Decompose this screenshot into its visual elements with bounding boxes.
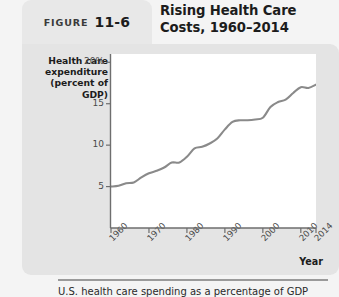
figure-body-panel: Health careexpenditure(percent of GDP) 2…: [22, 44, 339, 275]
figure-card: FIGURE 11-6 Rising Health Care Costs, 19…: [22, 0, 339, 297]
chart-area: Health careexpenditure(percent of GDP) 2…: [22, 44, 339, 275]
figure-number: 11-6: [94, 14, 130, 30]
figure-label-word: FIGURE: [44, 17, 89, 28]
axis-lines: [22, 44, 339, 275]
figure-caption: U.S. health care spending as a percentag…: [58, 286, 339, 297]
caption-divider: [58, 279, 328, 281]
figure-number-tab: FIGURE 11-6: [22, 0, 152, 44]
figure-title: Rising Health Care Costs, 1960–2014: [160, 3, 338, 36]
x-axis-label: Year: [299, 256, 323, 267]
